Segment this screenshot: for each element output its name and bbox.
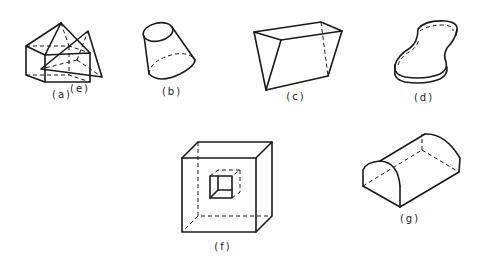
shape-g-half-cylinder	[363, 134, 460, 207]
shape-b-frustum	[141, 20, 195, 79]
label-g: (g)	[400, 213, 420, 224]
shape-d-curved-slab	[395, 21, 457, 83]
shape-f-hollow-cube	[182, 142, 272, 232]
label-c: (c)	[286, 91, 305, 102]
label-a: (a)	[52, 89, 72, 100]
label-d: (d)	[414, 92, 434, 103]
label-f: (f)	[214, 241, 231, 252]
shape-a-house-solid	[26, 23, 90, 82]
label-b: (b)	[162, 86, 182, 97]
label-e: (e)	[70, 83, 90, 94]
shape-c-wedge	[254, 22, 342, 90]
